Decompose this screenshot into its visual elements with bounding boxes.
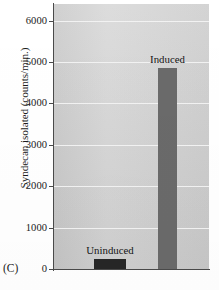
y-tick-6000 [49, 21, 54, 22]
bar-label-induced: Induced [150, 54, 185, 65]
gridline-6000 [54, 21, 209, 22]
gridline-4000 [54, 103, 209, 104]
plot-area [54, 4, 209, 270]
bar-induced [158, 68, 177, 269]
y-tick-label-4000: 4000 [7, 98, 47, 109]
y-axis-line [53, 3, 54, 271]
y-tick-label-1000: 1000 [7, 223, 47, 234]
y-tick-3000 [49, 145, 54, 146]
bar-label-uninduced: Uninduced [86, 245, 133, 256]
gridline-1000 [54, 228, 209, 229]
gridline-5000 [54, 62, 209, 63]
y-tick-label-6000: 6000 [7, 16, 47, 27]
y-tick-1000 [49, 228, 54, 229]
y-tick-label-2000: 2000 [7, 181, 47, 192]
y-tick-5000 [49, 62, 54, 63]
y-tick-2000 [49, 186, 54, 187]
figure-panel-c: Syndecan isolated (counts/min.) (C) 0100… [0, 0, 219, 290]
x-axis-line [53, 269, 210, 270]
y-tick-label-0: 0 [7, 264, 47, 275]
y-tick-label-5000: 5000 [7, 57, 47, 68]
gridline-3000 [54, 145, 209, 146]
y-tick-label-3000: 3000 [7, 140, 47, 151]
y-tick-0 [49, 269, 54, 270]
gridline-2000 [54, 186, 209, 187]
y-tick-4000 [49, 103, 54, 104]
bar-uninduced [94, 259, 126, 269]
